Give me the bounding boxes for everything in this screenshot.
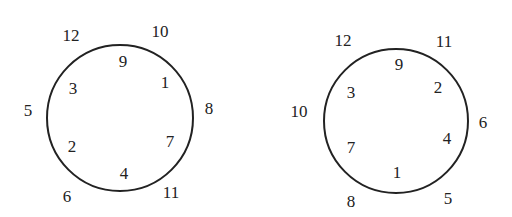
number-label-outside: 12 — [63, 27, 80, 44]
number-label-outside: 8 — [347, 193, 356, 210]
number-label-outside: 11 — [163, 184, 179, 201]
number-label-inside: 1 — [393, 164, 402, 181]
number-label-outside: 5 — [24, 102, 33, 119]
number-label-inside: 2 — [434, 79, 443, 96]
number-label-inside: 9 — [119, 53, 128, 70]
number-label-inside: 4 — [120, 165, 129, 182]
number-label-inside: 7 — [347, 139, 356, 156]
number-label-outside: 8 — [205, 100, 214, 117]
number-label-inside: 2 — [68, 138, 77, 155]
number-label-outside: 6 — [63, 188, 72, 205]
number-label-inside: 3 — [347, 84, 356, 101]
number-label-inside: 7 — [166, 133, 175, 150]
number-label-outside: 10 — [291, 103, 308, 120]
number-label-inside: 9 — [395, 56, 404, 73]
number-label-outside: 6 — [479, 114, 488, 131]
number-label-inside: 3 — [69, 80, 78, 97]
number-label-inside: 1 — [161, 74, 170, 91]
number-label-inside: 4 — [443, 130, 452, 147]
diagram-stage: 121091358274611121192310647185 — [0, 0, 512, 217]
number-label-outside: 12 — [335, 32, 352, 49]
number-label-outside: 10 — [152, 23, 169, 40]
number-label-outside: 11 — [436, 33, 452, 50]
number-label-outside: 5 — [444, 190, 453, 207]
